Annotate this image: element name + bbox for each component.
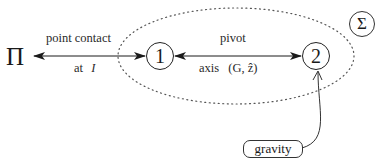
edge-gravity-node2 [302,72,321,148]
gravity-box: gravity [243,140,303,158]
edge2-label-bottom: axis (G, ẑ) [199,62,257,75]
system-symbol: Σ [349,11,375,37]
diagram-canvas [0,0,389,164]
edge1-label-top: point contact [46,32,111,45]
system-symbol-label: Σ [357,14,367,34]
plane-symbol: Π [6,44,24,69]
edge2-label-top: pivot [220,32,246,45]
node-2: 2 [302,42,330,70]
node-1-label: 1 [155,45,165,68]
gravity-label: gravity [255,141,292,157]
edge2-label-axis: axis [199,61,219,75]
edge2-label-expr: (G, ẑ) [228,61,257,75]
node-2-label: 2 [311,45,321,68]
edge1-label-var: I [91,61,95,75]
gravity-arrowhead [313,71,322,80]
edge1-label-at: at [74,61,83,75]
node-1: 1 [146,42,174,70]
edge1-label-bottom: at I [74,62,95,75]
